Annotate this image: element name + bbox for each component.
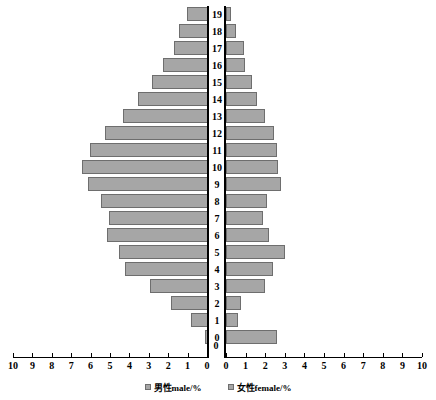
- axis-tick-female: [422, 353, 423, 357]
- pyramid-row: 5: [0, 244, 436, 261]
- bar-female: [226, 177, 281, 191]
- bar-male: [107, 228, 208, 242]
- population-pyramid-chart: 191817161514131211109876543210 109876543…: [0, 0, 436, 400]
- axis-tick-female: [344, 353, 345, 357]
- axis-tick-label-female: 2: [255, 360, 275, 371]
- male-bar-slot: [0, 142, 208, 159]
- axis-tick-female: [285, 353, 286, 357]
- male-bar-slot: [0, 57, 208, 74]
- female-bar-slot: [226, 193, 423, 210]
- male-bar-slot: [0, 295, 208, 312]
- axis-tick-label-male: 9: [22, 360, 42, 371]
- pyramid-rows: 191817161514131211109876543210: [0, 0, 436, 356]
- axis-tick-label-male: 8: [42, 360, 62, 371]
- bar-male: [174, 41, 208, 55]
- axis-tick-female: [304, 353, 305, 357]
- pyramid-row: 19: [0, 6, 436, 23]
- axis-tick-male: [32, 353, 33, 357]
- bar-male: [90, 143, 208, 157]
- bar-female: [226, 245, 285, 259]
- female-bar-slot: [226, 278, 423, 295]
- axis-tick-male: [71, 353, 72, 357]
- male-bar-slot: [0, 74, 208, 91]
- bar-male: [138, 92, 208, 106]
- axis-tick-label-male: 0: [197, 360, 217, 371]
- axis-horizontal-male: [13, 357, 208, 358]
- pyramid-row: 14: [0, 91, 436, 108]
- bar-male: [152, 75, 208, 89]
- axis-tick-female: [363, 353, 364, 357]
- axis-tick-female: [324, 353, 325, 357]
- bar-male: [101, 194, 208, 208]
- female-bar-slot: [226, 6, 423, 23]
- legend-item-female: 女性female/%: [228, 381, 292, 394]
- male-bar-slot: [0, 244, 208, 261]
- axis-tick-label-male: 10: [3, 360, 23, 371]
- axis-vertical-male: [207, 6, 209, 358]
- bar-female: [226, 194, 267, 208]
- legend-label-male: 男性male/%: [154, 381, 202, 394]
- pyramid-row: 18: [0, 23, 436, 40]
- axis-tick-label-female: 7: [353, 360, 373, 371]
- pyramid-row: 13: [0, 108, 436, 125]
- male-bar-slot: [0, 91, 208, 108]
- female-bar-slot: [226, 261, 423, 278]
- bar-female: [226, 211, 263, 225]
- female-bar-slot: [226, 23, 423, 40]
- pyramid-row: 15: [0, 74, 436, 91]
- bar-female: [226, 92, 257, 106]
- bar-male: [191, 313, 208, 327]
- male-bar-slot: [0, 278, 208, 295]
- bar-female: [226, 24, 236, 38]
- bar-male: [179, 24, 208, 38]
- male-bar-slot: [0, 227, 208, 244]
- bar-male: [109, 211, 208, 225]
- axis-tick-male: [13, 353, 14, 357]
- pyramid-row: 3: [0, 278, 436, 295]
- male-bar-slot: [0, 40, 208, 57]
- axis-tick-label-female: 4: [294, 360, 314, 371]
- pyramid-row: 4: [0, 261, 436, 278]
- axis-tick-label-male: 3: [139, 360, 159, 371]
- female-bar-slot: [226, 125, 423, 142]
- bar-male: [123, 109, 208, 123]
- female-bar-slot: [226, 142, 423, 159]
- bar-male: [171, 296, 208, 310]
- male-bar-slot: [0, 23, 208, 40]
- bar-female: [226, 126, 274, 140]
- bar-female: [226, 279, 265, 293]
- pyramid-row: 1: [0, 312, 436, 329]
- axis-horizontal-female: [225, 357, 422, 358]
- axis-tick-male: [91, 353, 92, 357]
- pyramid-row: 2: [0, 295, 436, 312]
- axis-tick-label-male: 1: [178, 360, 198, 371]
- bar-female: [226, 7, 231, 21]
- bar-female: [226, 313, 238, 327]
- bar-male: [88, 177, 208, 191]
- legend-item-male: 男性male/%: [145, 381, 202, 394]
- axis-tick-label-female: 10: [412, 360, 432, 371]
- male-bar-slot: [0, 125, 208, 142]
- female-bar-slot: [226, 295, 423, 312]
- bar-female: [226, 330, 277, 344]
- bar-female: [226, 109, 265, 123]
- bar-female: [226, 228, 269, 242]
- bar-male: [187, 7, 208, 21]
- axis-tick-male: [149, 353, 150, 357]
- axis-tick-male: [207, 353, 208, 357]
- female-bar-slot: [226, 227, 423, 244]
- axis-tick-label-female: 6: [334, 360, 354, 371]
- male-bar-slot: [0, 312, 208, 329]
- bar-female: [226, 143, 277, 157]
- legend-swatch-male-icon: [145, 384, 151, 390]
- pyramid-row: 9: [0, 176, 436, 193]
- female-bar-slot: [226, 57, 423, 74]
- bar-female: [226, 296, 241, 310]
- pyramid-row: 8: [0, 193, 436, 210]
- pyramid-row: 12: [0, 125, 436, 142]
- bar-male: [105, 126, 208, 140]
- male-bar-slot: [0, 108, 208, 125]
- center-zero-label: 0: [207, 340, 225, 351]
- axis-tick-label-male: 6: [81, 360, 101, 371]
- axis-tick-female: [226, 353, 227, 357]
